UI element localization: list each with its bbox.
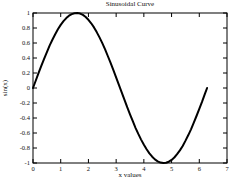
x-tick-label: 7	[225, 165, 229, 172]
y-tick-label: 0	[27, 84, 30, 91]
y-tick-label: 0.6	[22, 39, 31, 46]
x-tick-label: 1	[59, 165, 62, 172]
y-tick-label: 0.8	[22, 24, 30, 31]
x-tick-label: 2	[87, 165, 90, 172]
y-tick-label: 0.4	[22, 54, 31, 61]
y-tick-label: -1	[25, 159, 30, 166]
y-tick-label: -0.6	[20, 129, 31, 136]
plot-box	[33, 13, 227, 163]
y-tick-label: -0.8	[20, 144, 30, 151]
y-tick-label: -0.4	[20, 114, 31, 121]
x-tick-label: 3	[115, 165, 118, 172]
y-tick-label: -0.2	[20, 99, 30, 106]
plot-svg: 01234567-1-0.8-0.6-0.4-0.200.20.40.60.81	[0, 0, 236, 184]
sine-curve	[33, 13, 207, 163]
y-tick-label: 0.2	[22, 69, 30, 76]
figure: Sinusoidal Curve sin(x) x values 0123456…	[0, 0, 236, 184]
x-tick-label: 4	[142, 165, 146, 172]
x-tick-label: 5	[170, 165, 173, 172]
x-tick-label: 0	[31, 165, 34, 172]
x-tick-label: 6	[198, 165, 202, 172]
y-tick-label: 1	[27, 9, 30, 16]
